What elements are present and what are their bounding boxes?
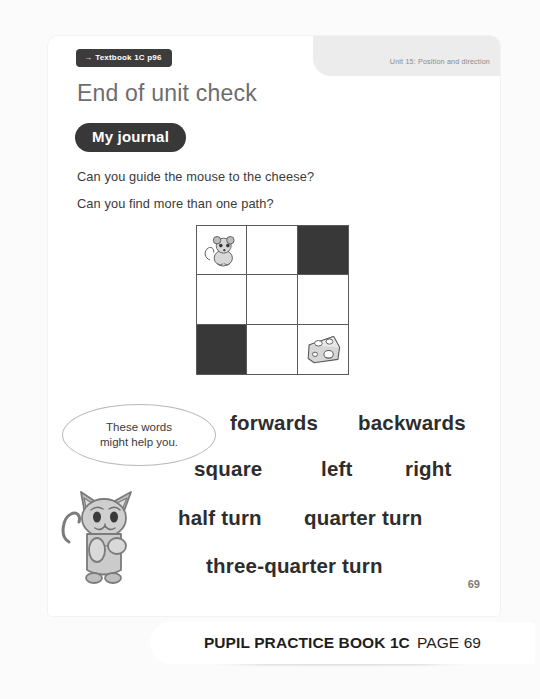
cheese-icon [301, 328, 344, 370]
word-square: square [194, 457, 262, 481]
grid-cell-r2c1-open[interactable] [197, 275, 247, 324]
grid-cell-r3c1-blocked[interactable] [197, 325, 247, 374]
footer-bar: PUPIL PRACTICE BOOK 1CPAGE 69 [150, 622, 535, 664]
word-half-turn: half turn [178, 506, 262, 530]
speech-bubble: These words might help you. [62, 404, 216, 466]
page-number: 69 [468, 578, 480, 590]
footer-page-label: PAGE 69 [417, 634, 481, 651]
scanned-page-background: Unit 15: Position and direction →Textboo… [0, 0, 540, 699]
mouse-icon [200, 229, 242, 271]
cat-mascot-icon [61, 484, 147, 594]
grid-cell-r2c2-open[interactable] [247, 275, 297, 324]
puzzle-grid [196, 225, 349, 375]
unit-header-band: Unit 15: Position and direction [313, 36, 500, 76]
grid-cell-r1c2-open[interactable] [247, 226, 297, 275]
footer-text: PUPIL PRACTICE BOOK 1CPAGE 69 [204, 634, 481, 652]
page-title: End of unit check [77, 80, 257, 107]
word-forwards: forwards [230, 411, 318, 435]
textbook-reference-label: Textbook 1C p96 [95, 53, 161, 62]
grid-cell-r3c3-cheese[interactable] [298, 325, 348, 374]
grid-cell-r1c1-mouse[interactable] [197, 226, 247, 275]
word-three-quarter-turn: three-quarter turn [206, 554, 383, 578]
word-quarter-turn: quarter turn [304, 506, 423, 530]
word-backwards: backwards [358, 411, 466, 435]
speech-bubble-text: These words might help you. [90, 420, 188, 450]
word-left: left [321, 457, 353, 481]
question-line-1: Can you guide the mouse to the cheese? [77, 169, 314, 184]
speech-bubble-line-1: These words [106, 421, 172, 433]
grid-cell-r2c3-open[interactable] [298, 275, 348, 324]
grid-cell-r1c3-blocked[interactable] [298, 226, 348, 275]
grid-cell-r3c2-open[interactable] [247, 325, 297, 374]
textbook-reference-badge[interactable]: →Textbook 1C p96 [76, 49, 172, 67]
unit-label: Unit 15: Position and direction [390, 57, 490, 66]
worksheet-page: Unit 15: Position and direction →Textboo… [48, 36, 500, 616]
speech-bubble-line-2: might help you. [100, 436, 178, 448]
word-right: right [405, 457, 452, 481]
question-line-2: Can you find more than one path? [77, 196, 274, 211]
my-journal-badge: My journal [75, 123, 186, 152]
footer-book-title: PUPIL PRACTICE BOOK 1C [204, 634, 410, 651]
arrow-right-icon: → [84, 53, 92, 62]
